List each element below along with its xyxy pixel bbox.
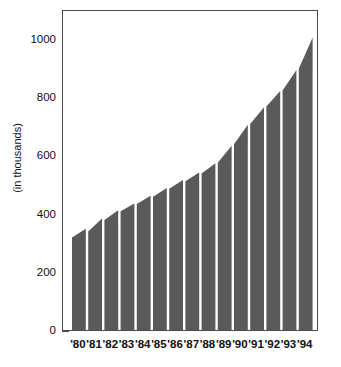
x-tick-label: '94: [293, 338, 317, 350]
x-axis-tick-labels: '80'81'82'83'84'85'86'87'88'89'90'91'92'…: [0, 0, 341, 367]
chart-figure: (in thousands) 02004006008001000 '80'81'…: [0, 0, 341, 367]
